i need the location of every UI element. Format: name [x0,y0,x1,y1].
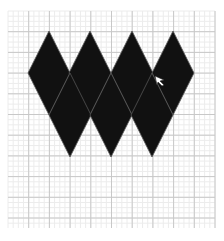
diagram-canvas[interactable] [0,0,224,241]
